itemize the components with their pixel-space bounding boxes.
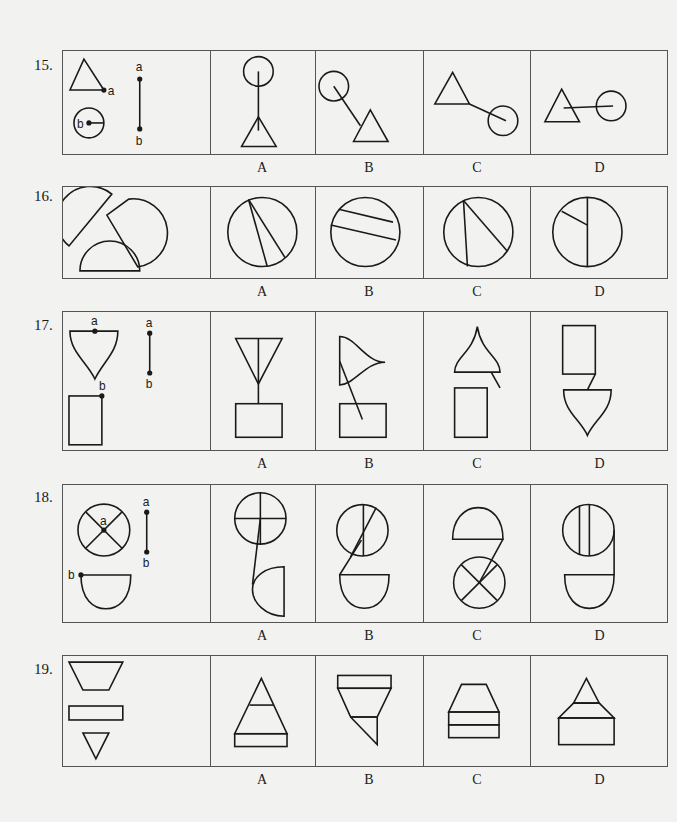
- svg-text:b: b: [99, 379, 106, 393]
- option-c-figure: [424, 485, 531, 622]
- figure-row: a b a b: [62, 311, 668, 451]
- stem-cell: [63, 187, 210, 278]
- question-number: 19.: [34, 661, 53, 678]
- option-d-label: D: [531, 772, 668, 788]
- figure-row: [62, 186, 668, 279]
- option-a-cell[interactable]: [210, 656, 316, 766]
- option-b-figure: [316, 485, 423, 622]
- option-c-figure: [424, 656, 531, 766]
- question-number: 18.: [34, 489, 53, 506]
- question-number: 16.: [34, 188, 53, 205]
- option-d-figure: [531, 187, 667, 278]
- svg-text:b: b: [68, 568, 75, 582]
- option-b-cell[interactable]: [315, 187, 423, 278]
- option-b-label: B: [315, 160, 423, 176]
- option-d-label: D: [531, 284, 668, 300]
- option-b-label: B: [315, 456, 423, 472]
- stem-cell: a a b b: [63, 485, 210, 622]
- option-a-cell[interactable]: [210, 312, 316, 450]
- option-b-cell[interactable]: [315, 656, 423, 766]
- option-c-cell[interactable]: [423, 51, 531, 154]
- stem-figure: a b a b: [63, 312, 210, 450]
- option-b-cell[interactable]: [315, 485, 423, 622]
- option-b-figure: [316, 656, 423, 766]
- option-c-cell[interactable]: [423, 312, 531, 450]
- option-a-cell[interactable]: [210, 51, 316, 154]
- option-a-label: A: [209, 160, 315, 176]
- option-c-label: C: [423, 456, 531, 472]
- question-number: 17.: [34, 317, 53, 334]
- svg-text:b: b: [146, 377, 153, 391]
- option-a-label: A: [209, 284, 315, 300]
- option-d-cell[interactable]: [530, 485, 667, 622]
- option-a-cell[interactable]: [210, 187, 316, 278]
- option-d-cell[interactable]: [530, 187, 667, 278]
- option-labels: A B C D: [62, 284, 668, 300]
- option-c-cell[interactable]: [423, 187, 531, 278]
- option-b-figure: [316, 187, 423, 278]
- svg-text:a: a: [143, 495, 150, 509]
- option-c-cell[interactable]: [423, 656, 531, 766]
- option-labels: A B C D: [62, 456, 668, 472]
- svg-text:a: a: [91, 314, 98, 328]
- svg-text:a: a: [100, 514, 107, 528]
- option-c-figure: [424, 187, 531, 278]
- option-b-cell[interactable]: [315, 51, 423, 154]
- stem-figure: a b a b: [63, 51, 210, 154]
- stem-figure: [63, 187, 210, 278]
- option-b-cell[interactable]: [315, 312, 423, 450]
- option-a-label: A: [209, 456, 315, 472]
- option-d-figure: [531, 51, 667, 154]
- option-c-cell[interactable]: [423, 485, 531, 622]
- option-labels: A B C D: [62, 160, 668, 176]
- option-a-figure: [211, 312, 316, 450]
- option-b-label: B: [315, 628, 423, 644]
- figure-row: a a b b: [62, 484, 668, 623]
- option-labels: A B C D: [62, 628, 668, 644]
- option-d-figure: [531, 656, 667, 766]
- svg-text:b: b: [77, 117, 84, 131]
- option-c-label: C: [423, 160, 531, 176]
- option-b-label: B: [315, 772, 423, 788]
- stem-cell: [63, 656, 210, 766]
- figure-row: [62, 655, 668, 767]
- option-c-label: C: [423, 628, 531, 644]
- stem-cell: a b a b: [63, 312, 210, 450]
- option-d-figure: [531, 312, 667, 450]
- stem-figure: a a b b: [63, 485, 210, 622]
- option-d-cell[interactable]: [530, 51, 667, 154]
- option-c-label: C: [423, 772, 531, 788]
- svg-text:b: b: [143, 556, 150, 570]
- svg-text:b: b: [136, 134, 143, 148]
- stem-figure: [63, 656, 210, 766]
- option-a-label: A: [209, 772, 315, 788]
- option-a-figure: [211, 485, 316, 622]
- option-d-figure: [531, 485, 667, 622]
- option-c-label: C: [423, 284, 531, 300]
- svg-text:a: a: [136, 60, 143, 74]
- option-b-figure: [316, 312, 423, 450]
- option-b-figure: [316, 51, 423, 154]
- option-d-label: D: [531, 160, 668, 176]
- option-d-label: D: [531, 628, 668, 644]
- option-a-figure: [211, 656, 316, 766]
- option-a-cell[interactable]: [210, 485, 316, 622]
- svg-text:a: a: [108, 84, 115, 98]
- question-number: 15.: [34, 57, 53, 74]
- option-d-label: D: [531, 456, 668, 472]
- stem-cell: a b a b: [63, 51, 210, 154]
- option-labels: A B C D: [62, 772, 668, 788]
- option-c-figure: [424, 312, 531, 450]
- option-a-figure: [211, 187, 316, 278]
- option-a-figure: [211, 51, 316, 154]
- option-c-figure: [424, 51, 531, 154]
- figure-row: a b a b: [62, 50, 668, 155]
- option-b-label: B: [315, 284, 423, 300]
- svg-text:a: a: [146, 316, 153, 330]
- option-d-cell[interactable]: [530, 656, 667, 766]
- option-d-cell[interactable]: [530, 312, 667, 450]
- option-a-label: A: [209, 628, 315, 644]
